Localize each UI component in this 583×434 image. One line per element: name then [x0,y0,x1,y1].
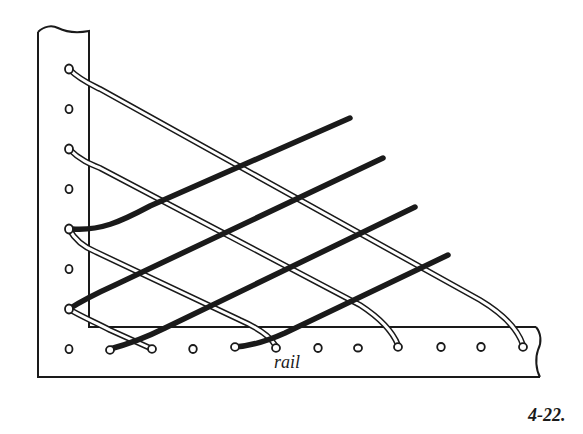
rail-hole [519,343,527,351]
rail-hole [477,343,485,351]
post-outline [38,26,89,327]
figure-number: 4-22. [528,405,566,426]
post-hole [65,225,73,234]
rail-hole [394,343,402,351]
post-hole [65,65,73,74]
post-hole [65,305,73,314]
post-holes [65,65,73,354]
rail-hole [437,343,445,351]
white-string-1 [69,69,523,345]
white-strings [69,69,523,348]
rail-holes [106,343,527,354]
rail-hole [354,345,362,352]
post-hole [66,345,73,353]
rail-hole [189,345,197,353]
rail-hole [314,344,322,352]
black-strings [69,118,448,349]
post-hole [65,145,73,154]
rail-right-end [536,327,540,377]
rail-hole [106,346,114,354]
post-hole [66,265,73,273]
black-string-2 [69,158,383,309]
rail-hole [148,345,156,353]
rail-label: rail [274,352,300,373]
post-hole [66,185,73,193]
rail-hole [231,343,239,351]
post-hole [66,105,73,113]
rail-hole [272,344,280,352]
